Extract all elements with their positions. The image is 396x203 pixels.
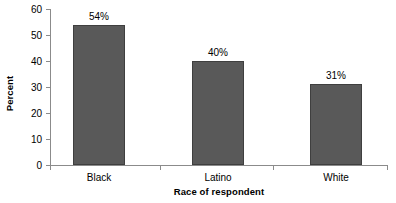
bar-chart: Percent 60 50 40 30 20 10 0 54% 40% 31% …: [0, 0, 396, 203]
x-axis-line: [50, 165, 388, 166]
y-tick-mark-40: [46, 61, 50, 62]
y-tick-label-30: 30: [14, 83, 42, 93]
y-axis-title: Percent: [4, 64, 15, 124]
x-tick-label-black: Black: [54, 172, 144, 184]
x-tick-mark-2: [273, 166, 274, 170]
y-tick-label-60: 60: [14, 5, 42, 15]
y-tick-mark-50: [46, 35, 50, 36]
y-tick-label-40: 40: [14, 57, 42, 67]
y-tick-label-20: 20: [14, 109, 42, 119]
x-tick-label-white: White: [291, 172, 381, 184]
x-axis-title: Race of respondent: [50, 186, 388, 197]
y-tick-mark-60: [46, 9, 50, 10]
y-tick-mark-10: [46, 139, 50, 140]
y-tick-label-0: 0: [14, 161, 42, 171]
y-tick-mark-30: [46, 87, 50, 88]
bar-latino: [192, 61, 244, 165]
y-tick-label-50: 50: [14, 31, 42, 41]
x-tick-mark-start: [50, 166, 51, 170]
y-axis-line: [50, 9, 51, 166]
x-tick-mark-1: [160, 166, 161, 170]
x-tick-label-latino: Latino: [173, 172, 263, 184]
y-tick-mark-20: [46, 113, 50, 114]
bar-black: [73, 25, 125, 165]
bar-white: [310, 84, 362, 165]
bar-value-label-latino: 40%: [183, 47, 253, 58]
x-tick-mark-end: [387, 166, 388, 170]
y-tick-label-10: 10: [14, 135, 42, 145]
bar-value-label-white: 31%: [301, 70, 371, 81]
bar-value-label-black: 54%: [64, 11, 134, 22]
